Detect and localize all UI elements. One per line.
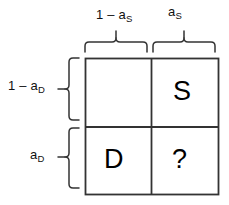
column-label-left: 1 – aS	[96, 8, 132, 24]
column-label-left-subscript: S	[126, 13, 132, 24]
cell-bottom-left: D	[104, 146, 124, 173]
row-label-bottom: aD	[30, 148, 44, 164]
row-label-top-base: 1 – a	[8, 78, 38, 93]
column-label-right-subscript: S	[175, 10, 181, 21]
top-brace-right	[153, 31, 215, 52]
column-label-right: aS	[168, 5, 182, 21]
row-label-top-subscript: D	[38, 84, 45, 95]
diagram-vector-layer	[0, 0, 229, 205]
left-brace-bottom	[58, 128, 79, 188]
cell-bottom-right: ?	[172, 146, 187, 173]
left-brace-top	[58, 58, 79, 120]
cell-top-right: S	[173, 78, 191, 105]
grid-dividers	[86, 59, 219, 195]
row-label-top: 1 – aD	[8, 79, 45, 95]
row-label-bottom-subscript: D	[37, 153, 44, 164]
diagram-canvas: 1 – aS aS 1 – aD aD S D ?	[0, 0, 229, 205]
top-brace-left	[85, 31, 147, 52]
column-label-left-base: 1 – a	[96, 7, 126, 22]
